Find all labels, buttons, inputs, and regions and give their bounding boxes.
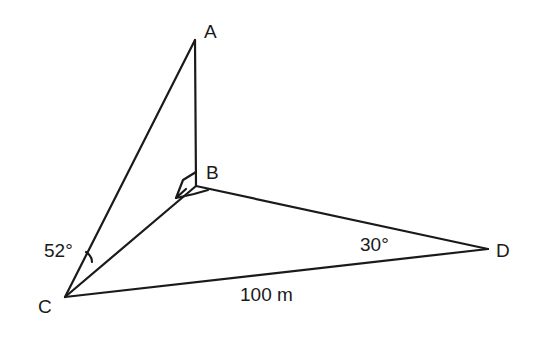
segment-ab bbox=[195, 40, 196, 186]
point-label-b: B bbox=[206, 163, 219, 182]
angle-arc-c bbox=[86, 252, 92, 262]
segment-ac bbox=[65, 40, 195, 297]
point-label-a: A bbox=[204, 22, 217, 41]
length-label-cd: 100 m bbox=[240, 285, 293, 304]
segment-bc bbox=[65, 186, 196, 297]
point-label-c: C bbox=[38, 297, 52, 316]
angle-label-d: 30° bbox=[360, 235, 389, 254]
segment-bd bbox=[196, 186, 488, 249]
angle-label-c: 52° bbox=[44, 241, 73, 260]
point-label-d: D bbox=[496, 241, 510, 260]
